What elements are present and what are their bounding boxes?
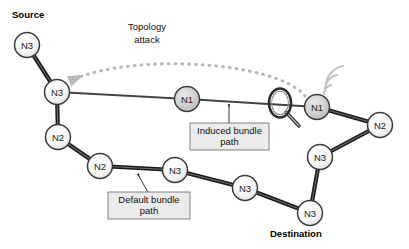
topology-attack-label-line2: attack bbox=[134, 34, 160, 45]
callouts-layer: Induced bundlepathDefault bundlepath bbox=[108, 104, 269, 219]
node-n_hub[interactable]: N3 bbox=[45, 80, 70, 105]
node-circle bbox=[368, 113, 393, 138]
node-n_mid1[interactable]: N1 bbox=[175, 87, 200, 112]
node-n_lw2[interactable]: N2 bbox=[88, 154, 113, 179]
node-circle bbox=[233, 176, 258, 201]
node-n_rt3[interactable]: N3 bbox=[308, 145, 333, 170]
callout-text-line1: Induced bundle bbox=[197, 125, 262, 136]
node-circle bbox=[305, 95, 330, 120]
node-circle bbox=[15, 33, 40, 58]
node-circle bbox=[88, 154, 113, 179]
node-circle bbox=[163, 158, 188, 183]
node-n_lw1[interactable]: N2 bbox=[46, 125, 71, 150]
callout-induced-bundle-path: Induced bundlepath bbox=[190, 104, 269, 150]
node-circle bbox=[308, 145, 333, 170]
edge-n_hub-n_mid1 bbox=[57, 92, 187, 99]
destination-label: Destination bbox=[270, 228, 322, 239]
node-n_bm1[interactable]: N3 bbox=[163, 158, 188, 183]
node-n_bm2[interactable]: N3 bbox=[233, 176, 258, 201]
callout-leader-line bbox=[138, 174, 148, 192]
topology-attack-label-line1: Topology bbox=[128, 21, 166, 32]
node-circle bbox=[298, 201, 323, 226]
callout-text-line2: path bbox=[220, 136, 239, 147]
node-circle bbox=[175, 87, 200, 112]
node-n_rt1[interactable]: N1 bbox=[305, 95, 330, 120]
topology-attack-diagram: N3N3N1N1N2N3N3N2N2N3N3 Induced bundlepat… bbox=[0, 0, 409, 249]
callout-text-line2: path bbox=[140, 205, 159, 216]
callout-text-line1: Default bundle bbox=[118, 194, 179, 205]
node-circle bbox=[45, 80, 70, 105]
node-circle bbox=[46, 125, 71, 150]
edge-n_mid1-n_rt1 bbox=[187, 99, 317, 107]
magnifier-icon bbox=[269, 89, 299, 127]
source-label: Source bbox=[12, 9, 44, 20]
wireless-signal-icon bbox=[324, 66, 343, 94]
node-n_dest[interactable]: N3 bbox=[298, 201, 323, 226]
diagram-canvas: N3N3N1N1N2N3N3N2N2N3N3 Induced bundlepat… bbox=[0, 0, 409, 249]
node-n_src[interactable]: N3 bbox=[15, 33, 40, 58]
node-n_rt2[interactable]: N2 bbox=[368, 113, 393, 138]
